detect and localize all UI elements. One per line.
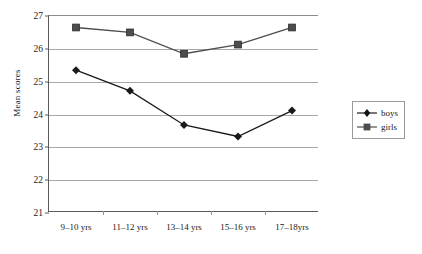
x-tick-label: 13–14 yrs bbox=[166, 222, 202, 232]
data-point-diamond bbox=[288, 107, 296, 115]
x-tick-label: 9–10 yrs bbox=[60, 222, 91, 232]
legend-marker-square-icon bbox=[356, 121, 378, 133]
legend-label-boys: boys bbox=[381, 108, 398, 118]
series-line-girls bbox=[76, 27, 292, 53]
legend-item-girls[interactable]: girls bbox=[356, 120, 401, 134]
legend-item-boys[interactable]: boys bbox=[356, 106, 401, 120]
data-point-diamond bbox=[180, 121, 188, 129]
y-tick-label: 27 bbox=[34, 11, 44, 21]
legend-marker-diamond-icon bbox=[356, 107, 378, 119]
chart-legend: boys girls bbox=[352, 101, 405, 139]
y-axis-title: Mean scores bbox=[12, 48, 22, 138]
data-point-diamond bbox=[126, 87, 134, 95]
y-tick-label: 23 bbox=[34, 142, 44, 152]
data-point-diamond bbox=[234, 132, 242, 140]
data-point-diamond bbox=[72, 66, 80, 74]
x-tick-label: 15–16 yrs bbox=[220, 222, 256, 232]
y-tick-label: 25 bbox=[34, 77, 44, 87]
data-point-square bbox=[289, 24, 296, 31]
x-tick-label: 17–18yrs bbox=[275, 222, 309, 232]
series-layer bbox=[49, 16, 319, 213]
x-tick-label: 11–12 yrs bbox=[112, 222, 147, 232]
y-tick-label: 21 bbox=[34, 208, 44, 218]
data-point-square bbox=[181, 50, 188, 57]
line-chart: Mean scores 21222324252627 9–10 yrs11–12… bbox=[0, 0, 422, 254]
y-tick-label: 22 bbox=[34, 175, 44, 185]
data-point-square bbox=[235, 41, 242, 48]
y-tick-label: 26 bbox=[34, 44, 44, 54]
y-tick-label: 24 bbox=[34, 110, 44, 120]
data-point-square bbox=[127, 29, 134, 36]
legend-label-girls: girls bbox=[381, 122, 397, 132]
plot-area: 21222324252627 9–10 yrs11–12 yrs13–14 yr… bbox=[48, 15, 318, 212]
data-point-square bbox=[73, 24, 80, 31]
